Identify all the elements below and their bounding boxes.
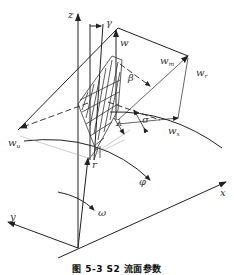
w-r-vector: [178, 58, 188, 118]
gamma-label: γ: [106, 18, 112, 28]
w-x-label: wx: [168, 126, 180, 137]
w-u-label: wu: [8, 138, 20, 149]
figure-caption: 图 5-3 S2 流面参数: [0, 262, 234, 275]
r-label: r: [92, 160, 97, 170]
y-axis-label: y: [10, 212, 16, 222]
z-axis-label: z: [68, 10, 73, 20]
w-r-label: wr: [196, 68, 207, 79]
coordinate-axes: [8, 14, 226, 258]
omega-label: ω: [98, 208, 106, 218]
sigma-label: σ: [142, 115, 149, 125]
w-label: w: [120, 38, 129, 48]
x-axis: [58, 182, 226, 258]
lambda-label: λ: [116, 118, 122, 128]
omega-arrow: [58, 192, 94, 210]
y-axis: [8, 222, 78, 248]
phi-curve: [24, 140, 150, 180]
w-m-vector: [118, 56, 188, 120]
w-m-label: wm: [160, 56, 174, 67]
beta-label: β: [128, 73, 134, 83]
x-axis-label: x: [220, 188, 226, 198]
phi-label: φ: [139, 177, 146, 187]
r-vector: [78, 158, 88, 248]
outer-arc: [110, 112, 222, 148]
